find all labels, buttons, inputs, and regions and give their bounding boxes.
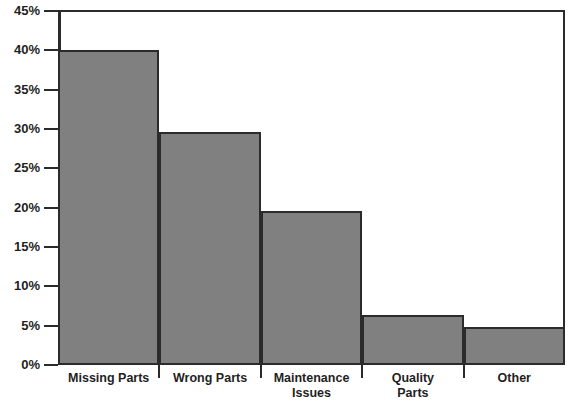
y-axis-tick-mark <box>44 10 58 12</box>
y-axis-tick-label: 35% <box>14 81 40 99</box>
bar-chart: 0%5%10%15%20%25%30%35%40%45% Missing Par… <box>0 0 575 410</box>
x-axis-tick-label: Wrong Parts <box>159 371 260 386</box>
y-axis-tick-mark <box>44 285 58 287</box>
y-axis-tick-label: 5% <box>21 317 40 335</box>
bar <box>464 327 565 365</box>
x-axis-tick-label-line: Other <box>464 371 565 386</box>
y-axis-tick-label: 40% <box>14 41 40 59</box>
y-axis-tick-mark <box>44 167 58 169</box>
y-axis-tick-label: 10% <box>14 277 40 295</box>
y-axis-tick-mark <box>44 89 58 91</box>
x-axis-tick-label-line: Quality <box>362 371 463 386</box>
y-axis-tick-label: 15% <box>14 238 40 256</box>
x-axis-tick-label: Missing Parts <box>58 371 159 386</box>
x-axis-tick-label: MaintenanceIssues <box>261 371 362 401</box>
x-axis-tick-label-line: Wrong Parts <box>159 371 260 386</box>
y-axis-tick-label: 20% <box>14 199 40 217</box>
y-axis-tick-mark <box>44 364 58 366</box>
x-axis-tick-label-line: Maintenance <box>261 371 362 386</box>
x-axis-tick-label-line: Parts <box>362 386 463 401</box>
y-axis-tick-mark <box>44 246 58 248</box>
y-axis-tick-mark <box>44 49 58 51</box>
bar <box>261 211 362 365</box>
x-axis-tick-label: Other <box>464 371 565 386</box>
y-axis-tick-label: 45% <box>14 2 40 20</box>
x-axis-tick-label: QualityParts <box>362 371 463 401</box>
y-axis-tick-mark <box>44 207 58 209</box>
x-axis-tick-label-line: Issues <box>261 386 362 401</box>
y-axis-tick-label: 0% <box>21 356 40 374</box>
y-axis-tick-label: 25% <box>14 159 40 177</box>
y-axis-tick-label: 30% <box>14 120 40 138</box>
y-axis-tick-mark <box>44 128 58 130</box>
bar <box>159 132 260 365</box>
bar <box>362 315 463 365</box>
y-axis-tick-mark <box>44 325 58 327</box>
bar <box>58 50 159 365</box>
x-axis-tick-label-line: Missing Parts <box>58 371 159 386</box>
